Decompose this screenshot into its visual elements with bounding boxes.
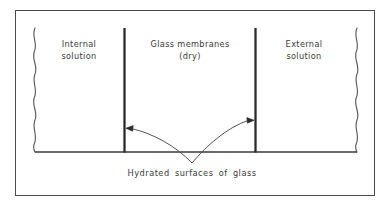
label-membrane-line1: Glass membranes — [150, 39, 229, 51]
leader-curve-right — [192, 121, 248, 164]
label-external-line2: solution — [286, 51, 323, 63]
arrow-to-left-wall — [126, 126, 133, 132]
label-external-line1: External — [286, 39, 323, 51]
caption-hydrated-surfaces: Hydrated surfaces of glass — [128, 168, 257, 180]
label-internal-line2: solution — [61, 51, 96, 63]
arrow-to-right-wall — [247, 118, 254, 124]
label-internal-line1: Internal — [61, 39, 96, 51]
label-glass-membranes: Glass membranes (dry) — [150, 39, 229, 62]
label-external-solution: External solution — [286, 39, 323, 62]
right-wavy-edge — [356, 28, 358, 152]
left-wavy-edge — [34, 28, 36, 152]
label-internal-solution: Internal solution — [61, 39, 96, 62]
leader-curve-left — [131, 129, 192, 164]
glass-membrane-diagram: Internal solution Glass membranes (dry) … — [0, 0, 392, 207]
label-membrane-line2: (dry) — [150, 51, 229, 63]
